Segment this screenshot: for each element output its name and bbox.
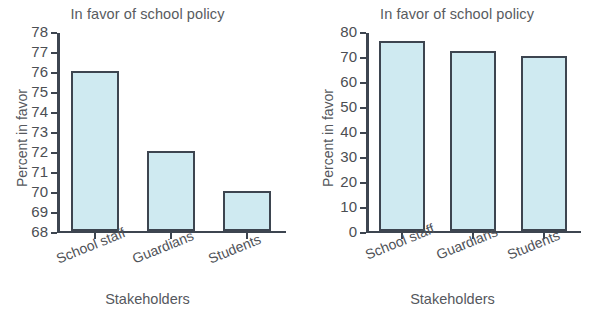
y-axis-label: Percent in favor [320,68,336,208]
y-tick-label: 75 [31,83,48,101]
y-axis-line [57,33,60,233]
y-tick-label: 73 [31,123,48,141]
y-tick-mark [360,32,366,34]
y-tick-label: 69 [31,203,48,221]
y-tick-mark [360,182,366,184]
bar-students [521,56,567,231]
plot-area: 01020304050607080 [366,33,580,233]
y-tick-mark [51,32,57,34]
y-tick-mark [360,207,366,209]
y-tick-mark [51,112,57,114]
x-tick-label: Students [206,231,263,267]
y-tick-mark [360,107,366,109]
y-tick-mark [51,132,57,134]
bar-students [223,191,271,231]
y-tick-mark [360,132,366,134]
y-tick-mark [51,232,57,234]
y-axis-label: Percent in favor [14,68,30,208]
y-tick-mark [51,172,57,174]
y-tick-mark [51,192,57,194]
bar-guardians [450,51,496,231]
x-axis-label: Stakeholders [20,291,275,307]
y-tick-label: 10 [340,198,357,216]
y-tick-label: 80 [340,23,357,41]
bar-school-staff [71,71,119,231]
y-tick-label: 71 [31,163,48,181]
y-tick-label: 72 [31,143,48,161]
x-tick-label: Guardians [130,227,196,266]
y-tick-label: 78 [31,23,48,41]
y-tick-mark [51,152,57,154]
bar-guardians [147,151,195,231]
y-tick-label: 70 [31,183,48,201]
two-bar-charts-figure: In favor of school policy Percent in fav… [0,0,590,313]
y-tick-mark [51,92,57,94]
y-tick-label: 76 [31,63,48,81]
y-tick-mark [51,72,57,74]
chart-title: In favor of school policy [380,6,590,22]
y-tick-label: 68 [31,223,48,241]
y-tick-label: 0 [349,223,357,241]
y-tick-mark [360,82,366,84]
chart-title: In favor of school policy [0,6,295,22]
y-tick-mark [360,157,366,159]
y-tick-label: 70 [340,48,357,66]
y-tick-label: 74 [31,103,48,121]
y-tick-label: 50 [340,98,357,116]
y-tick-label: 60 [340,73,357,91]
y-tick-mark [360,232,366,234]
y-axis-line [366,33,369,233]
chart-truncated-axis: In favor of school policy Percent in fav… [0,0,295,313]
bar-school-staff [379,41,425,231]
y-tick-label: 30 [340,148,357,166]
plot-area: 6869707172737475767778 [57,33,285,233]
y-tick-label: 77 [31,43,48,61]
chart-zero-baseline: In favor of school policy Percent in fav… [295,0,590,313]
x-axis-label: Stakeholders [325,291,580,307]
y-tick-label: 40 [340,123,357,141]
y-tick-mark [360,57,366,59]
y-tick-label: 20 [340,173,357,191]
y-tick-mark [51,52,57,54]
y-tick-mark [51,212,57,214]
